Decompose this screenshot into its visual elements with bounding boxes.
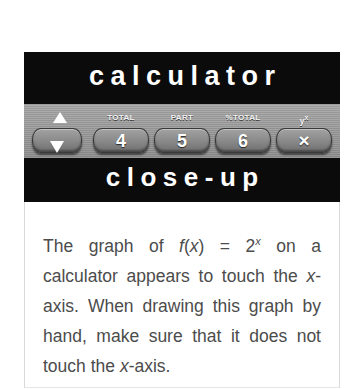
y-to-the-x-sublabel: yx [276, 114, 332, 126]
calculator-close-up-figure: calculator TOTAL 4 PART 5 %TOTAL [24, 52, 340, 378]
arrow-down-icon [50, 141, 64, 153]
caption-variable-x-2: x [306, 266, 315, 286]
masthead-title-calculator: calculator [24, 63, 340, 90]
masthead-title-close-up: close-up [24, 164, 340, 190]
percent-total-6-key-cap[interactable]: 6 [215, 128, 271, 153]
arrow-updown-key-cap[interactable] [32, 128, 82, 153]
caption-text: The graph of f(x) = 2x on a calculator a… [43, 226, 321, 381]
percent-total-6-key[interactable]: %TOTAL 6 [215, 109, 271, 153]
multiply-key-cap[interactable]: × [276, 128, 332, 153]
percent-total-6-key-sublabel: %TOTAL [215, 114, 271, 122]
part-5-key-cap[interactable]: 5 [154, 128, 210, 153]
percent-total-6-key-digit: 6 [238, 132, 248, 150]
caption-equals-two: ) = 2 [198, 236, 255, 256]
arrow-up-icon [53, 112, 67, 123]
calculator-keypad-strip: TOTAL 4 PART 5 %TOTAL 6 yx × [24, 104, 340, 158]
part-5-key[interactable]: PART 5 [154, 109, 210, 153]
masthead-top: calculator [24, 52, 340, 104]
part-5-key-digit: 5 [177, 132, 187, 150]
total-4-key[interactable]: TOTAL 4 [93, 109, 149, 153]
arrow-updown-key[interactable] [32, 109, 88, 153]
total-4-key-cap[interactable]: 4 [93, 128, 149, 153]
y-to-the-x-exponent: x [305, 114, 309, 121]
y-to-the-x-multiply-key[interactable]: yx × [276, 109, 332, 153]
part-5-key-sublabel: PART [154, 114, 210, 122]
caption-segment-1: The graph of [43, 236, 179, 256]
multiply-icon: × [298, 131, 309, 150]
caption-segment-4: -axis. [129, 356, 171, 376]
masthead-bottom: close-up [24, 158, 340, 202]
caption-panel: The graph of f(x) = 2x on a calculator a… [24, 202, 340, 388]
total-4-key-sublabel: TOTAL [93, 114, 149, 122]
total-4-key-digit: 4 [116, 132, 126, 150]
caption-variable-x-3: x [120, 356, 129, 376]
